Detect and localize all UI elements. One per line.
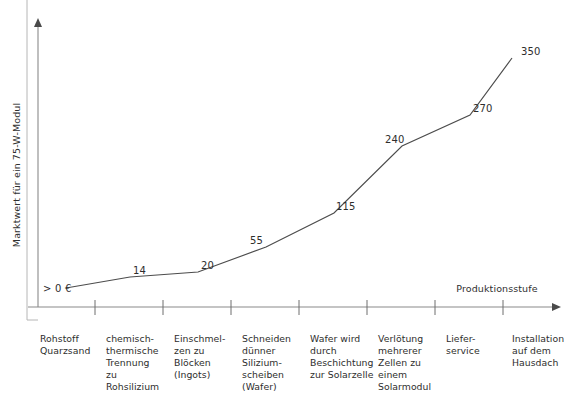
point-label-3: 55: [250, 235, 263, 246]
point-label-1: 14: [133, 265, 146, 276]
point-label-4: 115: [336, 201, 356, 212]
chart-container: Marktwert für ein 75-W-Modul Produktions…: [0, 0, 580, 404]
point-label-2: 20: [201, 260, 214, 271]
category-label-7: Installation auf dem Hausdach: [512, 333, 578, 369]
x-axis-arrowhead: [552, 303, 561, 311]
category-label-5: Verlötung mehrerer Zellen zu einem Solar…: [378, 333, 440, 393]
y-axis-title: Marktwert für ein 75-W-Modul: [11, 103, 22, 247]
point-label-5: 240: [385, 134, 405, 145]
x-axis-title: Produktionsstufe: [456, 283, 537, 294]
point-label-6: 270: [473, 103, 493, 114]
point-label-7: 350: [521, 46, 541, 57]
category-label-6: Liefer- service: [446, 333, 502, 357]
y-axis-arrowhead: [34, 18, 42, 27]
x-axis-category-labels: Rohstoff Quarzsand chemisch- thermische …: [0, 333, 580, 404]
point-label-0: > 0 €: [43, 283, 71, 294]
category-label-3: Schneiden dünner Silizium- scheiben (Waf…: [242, 333, 302, 393]
category-label-1: chemisch- thermische Trennung zu Rohsili…: [106, 333, 168, 393]
category-label-4: Wafer wird durch Beschichtung zur Solarz…: [310, 333, 376, 381]
category-label-2: Einschmel- zen zu Blöcken (Ingots): [174, 333, 236, 381]
value-series-line: [66, 58, 512, 288]
category-label-0: Rohstoff Quarzsand: [40, 333, 96, 357]
